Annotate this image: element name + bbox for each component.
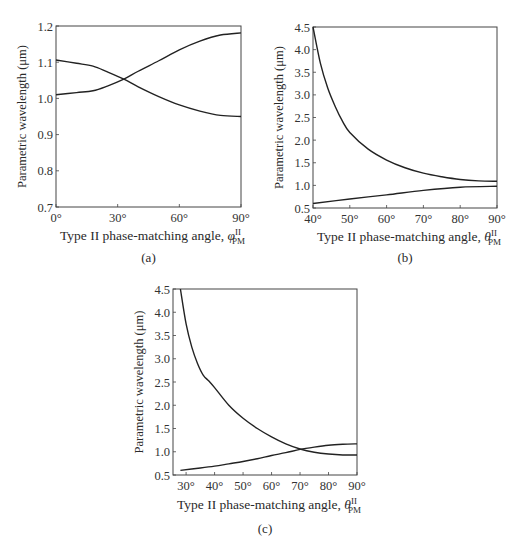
chart-panel-b: 0.51.01.52.02.53.03.54.04.540°50°60°70°8… <box>272 21 506 266</box>
y-tick-label: 2.0 <box>294 134 310 148</box>
y-tick-label: 2.5 <box>154 376 170 390</box>
y-tick-label: 4.0 <box>294 43 310 57</box>
data-curve <box>313 186 497 203</box>
x-tick-label: 90° <box>232 211 250 225</box>
y-axis-label: Parametric wavelength (μm) <box>15 45 29 188</box>
x-tick-label: 40° <box>304 212 322 226</box>
y-tick-label: 4.0 <box>154 306 170 320</box>
chart-panel-a: 0.70.80.91.01.11.20°30°60°90°Parametric … <box>15 20 250 266</box>
y-tick-label: 1.2 <box>37 20 53 34</box>
chart-panel-c: 0.51.01.52.02.53.03.54.04.530°40°50°60°7… <box>132 283 366 537</box>
y-tick-label: 3.5 <box>294 66 310 80</box>
x-tick-label: 60° <box>378 212 396 226</box>
panel-caption: (a) <box>141 250 155 265</box>
x-axis-label: Type II phase-matching angle, θIIPM <box>317 228 501 247</box>
x-tick-label: 80° <box>320 479 338 493</box>
x-tick-label: 30° <box>109 211 127 225</box>
y-tick-label: 1.0 <box>154 445 170 459</box>
x-tick-label: 0° <box>50 211 61 225</box>
x-tick-label: 60° <box>263 479 281 493</box>
panel-caption: (c) <box>258 521 272 536</box>
data-curve <box>180 444 357 471</box>
x-tick-label: 80° <box>451 212 469 226</box>
data-curve <box>313 27 497 181</box>
y-tick-label: 1.5 <box>154 422 170 436</box>
y-tick-label: 4.5 <box>154 283 170 297</box>
data-curve <box>56 60 241 116</box>
y-tick-label: 4.5 <box>294 21 310 35</box>
plot-frame <box>173 289 357 475</box>
y-tick-label: 2.0 <box>154 399 170 413</box>
x-tick-label: 60° <box>171 211 189 225</box>
x-tick-label: 90° <box>488 212 506 226</box>
y-tick-label: 3.0 <box>294 88 310 102</box>
y-tick-label: 3.5 <box>154 329 170 343</box>
y-tick-label: 3.0 <box>154 352 170 366</box>
y-tick-label: 1.5 <box>294 156 310 170</box>
x-tick-label: 70° <box>291 479 309 493</box>
plot-frame <box>56 26 241 207</box>
x-tick-label: 50° <box>234 479 252 493</box>
y-axis-label: Parametric wavelength (μm) <box>272 46 286 189</box>
y-tick-label: 0.8 <box>37 164 53 178</box>
figure-canvas: 0.70.80.91.01.11.20°30°60°90°Parametric … <box>0 0 518 550</box>
x-axis-label: Type II phase-matching angle, θIIPM <box>177 496 361 515</box>
x-axis-label: Type II phase-matching angle, φIIPM <box>60 227 245 246</box>
data-curve <box>180 289 357 455</box>
x-tick-label: 70° <box>415 212 433 226</box>
y-axis-label: Parametric wavelength (μm) <box>132 311 146 454</box>
y-tick-label: 2.5 <box>294 111 310 125</box>
x-tick-label: 90° <box>348 479 366 493</box>
x-tick-label: 50° <box>341 212 359 226</box>
y-tick-label: 1.0 <box>294 179 310 193</box>
y-tick-label: 1.0 <box>37 92 53 106</box>
y-tick-label: 0.5 <box>154 469 170 483</box>
panel-caption: (b) <box>397 250 412 265</box>
x-tick-label: 40° <box>206 479 224 493</box>
y-tick-label: 0.9 <box>37 128 53 142</box>
x-tick-label: 30° <box>177 479 195 493</box>
y-tick-label: 1.1 <box>37 56 53 70</box>
